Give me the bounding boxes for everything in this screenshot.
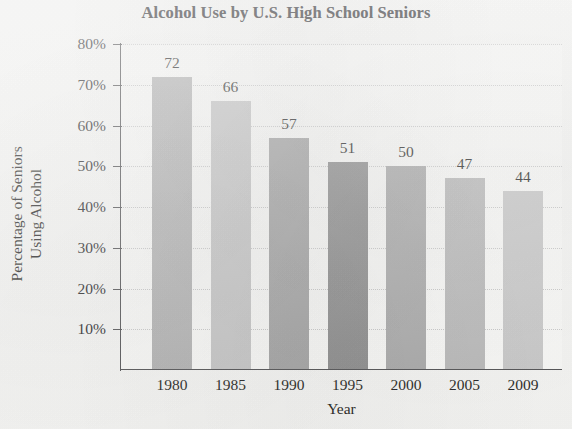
x-axis-tick-label-2009: 2009 <box>488 377 558 393</box>
chart-title: Alcohol Use by U.S. High School Seniors <box>0 3 572 23</box>
y-axis-tick-10 <box>113 329 122 330</box>
bar-chart-figure: Alcohol Use by U.S. High School Seniors … <box>0 0 572 429</box>
bar-value-label-1985: 66 <box>201 79 261 95</box>
bar-1985[interactable] <box>211 101 251 370</box>
y-axis-tick-60 <box>113 126 122 127</box>
x-axis-title: Year <box>121 400 562 418</box>
y-axis-tick-label-40: 40% <box>44 199 106 215</box>
plot-area <box>121 44 562 370</box>
y-axis-title-line-1: Percentage of Seniors <box>8 146 25 281</box>
y-axis-tick-label-70: 70% <box>44 77 106 93</box>
y-axis-tick-20 <box>113 289 122 290</box>
y-axis-title-line-2: Using Alcohol <box>27 169 44 259</box>
y-axis-tick-label-50: 50% <box>44 158 106 174</box>
bar-value-label-2005: 47 <box>435 156 495 172</box>
bar-2005[interactable] <box>445 178 485 370</box>
y-axis-tick-label-10: 10% <box>44 321 106 337</box>
bar-1980[interactable] <box>152 77 192 370</box>
y-axis-title: Percentage of Seniors Using Alcohol <box>6 95 48 325</box>
bar-value-label-1980: 72 <box>142 55 202 71</box>
y-axis-tick-40 <box>113 207 122 208</box>
bar-value-label-2000: 50 <box>376 144 436 160</box>
y-axis-tick-30 <box>113 248 122 249</box>
y-axis-tick-label-20: 20% <box>44 281 106 297</box>
y-axis-title-text: Percentage of Seniors Using Alcohol <box>8 99 46 329</box>
bar-2009[interactable] <box>503 191 543 370</box>
y-axis-tick-label-60: 60% <box>44 118 106 134</box>
gridline-80 <box>121 44 562 45</box>
bar-value-label-1990: 57 <box>259 116 319 132</box>
y-axis-tick-label-30: 30% <box>44 240 106 256</box>
bar-value-label-1995: 51 <box>318 140 378 156</box>
bar-2000[interactable] <box>386 166 426 370</box>
bar-1990[interactable] <box>269 138 309 370</box>
bar-value-label-2009: 44 <box>493 169 553 185</box>
y-axis-tick-50 <box>113 166 122 167</box>
bar-1995[interactable] <box>328 162 368 370</box>
y-axis-tick-70 <box>113 85 122 86</box>
x-axis-line <box>120 369 562 370</box>
y-axis-tick-80 <box>113 44 122 45</box>
y-axis-tick-label-80: 80% <box>44 36 106 52</box>
